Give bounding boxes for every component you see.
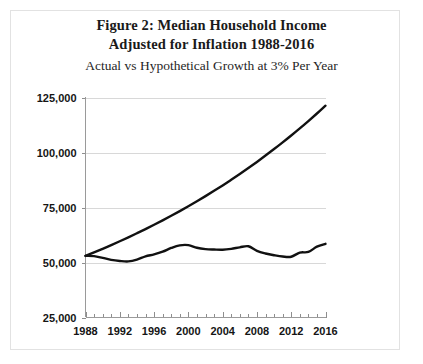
x-axis-label-2000: 2000 — [176, 325, 200, 337]
y-tick-marks — [82, 99, 86, 319]
x-axis-label-2012: 2012 — [279, 325, 303, 337]
series-line-actual — [86, 244, 326, 262]
x-axis-label-2016: 2016 — [313, 325, 337, 337]
x-axis-label-2008: 2008 — [245, 325, 269, 337]
line-chart: 25,00050,00075,000100,000125,000 1988199… — [0, 0, 423, 364]
figure-container: Figure 2: Median Household Income Adjust… — [0, 0, 423, 364]
x-minor-ticks — [87, 314, 327, 318]
x-axis-label-1996: 1996 — [142, 325, 166, 337]
gridlines — [86, 99, 327, 264]
y-axis-label-50000: 50,000 — [43, 257, 77, 269]
x-axis-labels: 19881992199620002004200820122016 — [73, 325, 337, 337]
x-axis-label-1992: 1992 — [108, 325, 132, 337]
y-axis-label-100000: 100,000 — [37, 147, 77, 159]
y-axis-label-125000: 125,000 — [37, 92, 77, 104]
y-axis-label-25000: 25,000 — [43, 312, 77, 324]
x-axis-label-1988: 1988 — [73, 325, 97, 337]
y-axis-label-75000: 75,000 — [43, 202, 77, 214]
y-axis-labels: 25,00050,00075,000100,000125,000 — [37, 92, 77, 324]
series-line-hypothetical — [86, 106, 326, 256]
x-axis-label-2004: 2004 — [210, 325, 235, 337]
